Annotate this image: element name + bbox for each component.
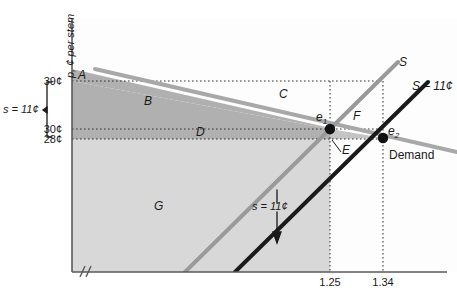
region-label-E: E	[342, 143, 350, 157]
region-label-A: A	[78, 68, 86, 82]
top-white	[72, 18, 457, 81]
point-label-e1: e1	[316, 110, 327, 126]
supply-curve-label: S	[399, 55, 407, 69]
point-label-e2-base: e	[388, 124, 395, 138]
region-label-G: G	[154, 199, 163, 213]
point-label-e1-base: e	[316, 110, 323, 124]
point-e2[interactable]	[378, 133, 388, 143]
region-label-D: D	[196, 125, 205, 139]
y-tick-28: 28¢	[22, 133, 62, 145]
region-label-F: F	[353, 109, 360, 123]
point-label-e1-sub: 1	[323, 117, 327, 126]
supply-shifted-curve-label: S – 11¢	[412, 79, 452, 93]
region-label-C: C	[279, 87, 288, 101]
y-tick-39: 39¢	[22, 75, 62, 87]
region-label-B: B	[144, 94, 152, 108]
demand-curve-label: Demand	[389, 148, 434, 162]
x-tick-125: 1.25	[306, 276, 354, 288]
figure-canvas: p, ¢ per stem 39¢ 30¢ 28¢ 1.25 1.34 s = …	[0, 0, 457, 299]
y-axis-title: p, ¢ per stem	[64, 14, 76, 78]
subsidy-brace-label: s = 11¢	[3, 103, 39, 115]
G-right-white	[330, 139, 383, 272]
point-label-e2: e2	[388, 124, 399, 140]
x-tick-134: 1.34	[359, 276, 407, 288]
subsidy-arrow-label: s = 11¢	[252, 200, 288, 212]
point-label-e2-sub: 2	[395, 131, 399, 140]
